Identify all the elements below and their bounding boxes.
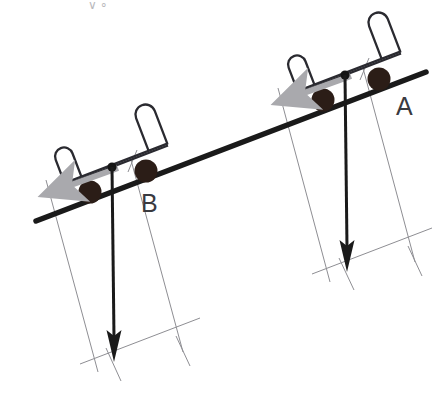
inclined-plane-diagram: ∨ ∘ bbox=[0, 0, 448, 395]
cart-a-wheels bbox=[312, 68, 391, 112]
cart-a-base-guide bbox=[312, 228, 432, 274]
diagram-canvas: ∨ ∘ bbox=[0, 0, 448, 395]
cart-b-base-guide bbox=[80, 318, 200, 364]
cart-b-weight-shaft bbox=[112, 167, 114, 338]
cart-a-label: A bbox=[396, 92, 413, 120]
cart-b-weight-vector bbox=[107, 167, 122, 362]
cart-a-wheel-front bbox=[368, 68, 391, 91]
faint-mark-text: ∨ ∘ bbox=[88, 0, 108, 12]
cart-b-label: B bbox=[141, 189, 158, 217]
cart-b-wheel-front bbox=[135, 160, 158, 183]
cart-b-right-tick bbox=[176, 336, 190, 366]
top-edge-faint-mark: ∨ ∘ bbox=[88, 0, 108, 12]
cart-a-right-tick bbox=[408, 246, 422, 276]
cart-a-weight-shaft bbox=[345, 75, 347, 248]
